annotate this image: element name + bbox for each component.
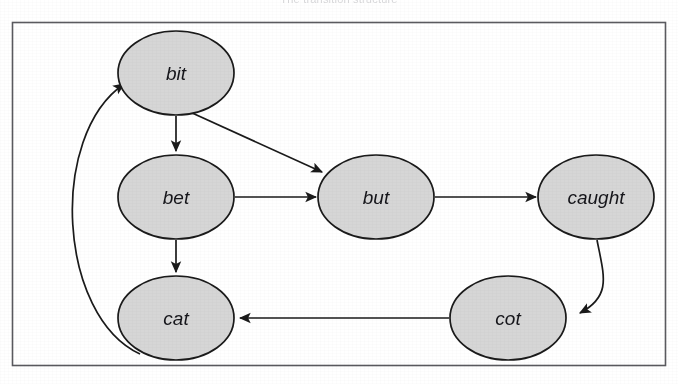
node-bet-label: bet [163,187,190,208]
graph-figure: bit bet but caught cot cat [0,0,678,384]
node-cat[interactable]: cat [118,276,234,360]
node-cot[interactable]: cot [450,276,566,360]
node-cat-label: cat [163,308,189,329]
node-cot-label: cot [495,308,521,329]
node-bet[interactable]: bet [118,155,234,239]
node-bit[interactable]: bit [118,31,234,115]
node-but[interactable]: but [318,155,434,239]
node-caught-label: caught [567,187,625,208]
node-bit-label: bit [166,63,187,84]
node-caught[interactable]: caught [538,155,654,239]
node-but-label: but [363,187,390,208]
